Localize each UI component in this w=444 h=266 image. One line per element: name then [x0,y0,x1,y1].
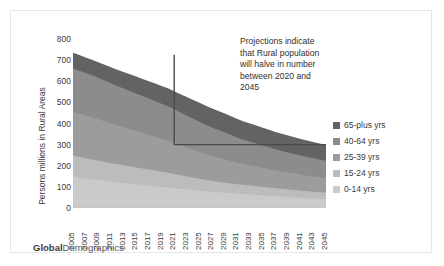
legend-label: 25-39 yrs [344,152,379,162]
annotation-line-3: will halve in number [240,59,360,71]
x-axis-tick-label: 2025 [195,232,203,250]
legend-label: 15-24 yrs [344,168,379,178]
legend-swatch-icon [333,122,340,129]
x-axis-tick-label: 2039 [283,232,291,250]
x-axis-tick-label: 2041 [296,232,304,250]
y-axis-tick-label: 500 [33,97,71,107]
y-axis-tick-label: 600 [33,76,71,86]
x-axis-tick-label: 2019 [157,232,165,250]
legend-item[interactable]: 65-plus yrs [333,117,433,133]
y-axis-tick-label: 300 [33,140,71,150]
y-axis-tick-label: 400 [33,119,71,129]
legend-item[interactable]: 0-14 yrs [333,181,433,197]
chart-legend: 65-plus yrs40-64 yrs25-39 yrs15-24 yrs0-… [333,117,433,197]
watermark-bold: Global [33,242,63,253]
y-axis-tick-label: 0 [33,203,71,213]
annotation-line-2: that Rural population [240,48,360,60]
x-axis-tick-label: 2015 [131,232,139,250]
legend-label: 0-14 yrs [344,184,375,194]
legend-item[interactable]: 40-64 yrs [333,133,433,149]
legend-swatch-icon [333,154,340,161]
x-axis-tick-label: 2029 [220,232,228,250]
x-axis-tick-label: 2027 [207,232,215,250]
annotation-text: Projections indicate that Rural populati… [240,36,360,94]
annotation-line-5: 2045 [240,82,360,94]
x-axis-tick-label: 2035 [258,232,266,250]
legend-item[interactable]: 25-39 yrs [333,149,433,165]
x-axis-tick-label: 2031 [232,232,240,250]
x-axis-tick-label: 2023 [182,232,190,250]
legend-swatch-icon [333,138,340,145]
y-axis-tick-label: 100 [33,182,71,192]
x-axis-tick-label: 2017 [144,232,152,250]
annotation-line-1: Projections indicate [240,36,360,48]
x-axis-tick-label: 2045 [321,232,329,250]
legend-swatch-icon [333,170,340,177]
legend-label: 40-64 yrs [344,136,379,146]
x-axis-tick-label: 2037 [270,232,278,250]
legend-label: 65-plus yrs [344,120,386,130]
x-axis-tick-label: 2033 [245,232,253,250]
y-axis-tick-label: 200 [33,161,71,171]
x-axis-tick-label: 2021 [169,232,177,250]
y-axis-tick-label: 800 [33,34,71,44]
legend-item[interactable]: 15-24 yrs [333,165,433,181]
x-axis-tick-label: 2043 [308,232,316,250]
y-axis-ticks: 0100200300400500600700800 [31,33,71,215]
chart-frame: Persons millions in Rural Areas 01002003… [10,10,432,253]
annotation-line-4: between 2020 and [240,71,360,83]
y-axis-tick-label: 700 [33,55,71,65]
watermark-rest: Demographics [63,242,124,253]
watermark: GlobalDemographics [33,242,124,253]
legend-swatch-icon [333,186,340,193]
